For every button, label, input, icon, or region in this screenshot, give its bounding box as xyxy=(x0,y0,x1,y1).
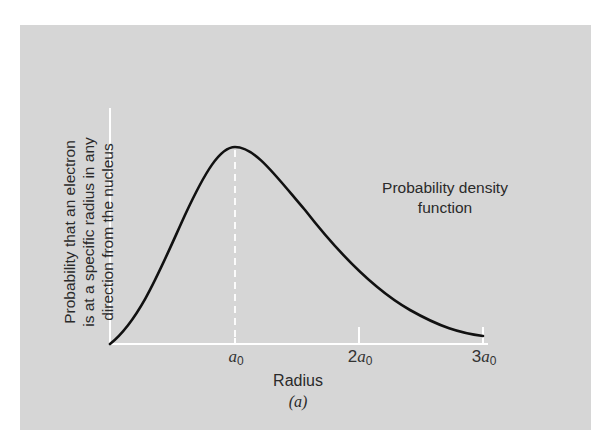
tick-var: a xyxy=(228,347,237,366)
tick-sub: 0 xyxy=(237,354,244,368)
x-axis-label: Radius xyxy=(273,372,323,390)
tick-var: a xyxy=(481,347,490,366)
x-tick-label-3a0: 3a0 xyxy=(472,347,497,368)
tick-sub: 0 xyxy=(366,354,373,368)
tick-sub: 0 xyxy=(490,354,497,368)
annotation-line-1: Probability density xyxy=(365,178,525,198)
x-tick-label-a0: a0 xyxy=(228,347,243,368)
annotation-line-2: function xyxy=(365,198,525,218)
probability-density-curve xyxy=(110,147,483,344)
y-axis-label-line-2: is at a specific radius in any xyxy=(79,107,98,357)
curve-annotation: Probability density function xyxy=(365,178,525,218)
x-tick-label-2a0: 2a0 xyxy=(348,347,373,368)
figure-caption: (a) xyxy=(289,393,308,411)
tick-var: a xyxy=(357,347,366,366)
y-axis-label-line-3: direction from the nucleus xyxy=(98,107,117,357)
y-axis-label-line-1: Probability that an electron xyxy=(60,107,79,357)
